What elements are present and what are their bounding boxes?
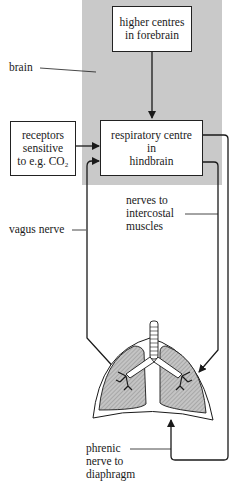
brain-label: brain bbox=[9, 61, 33, 74]
vagus-nerve-label: vagus nerve bbox=[9, 223, 64, 236]
brain-leader-line bbox=[40, 68, 96, 72]
receptors-box: receptors sensitive to e.g. CO₂ bbox=[10, 121, 76, 176]
intercostal-nerve-line bbox=[199, 162, 218, 372]
respiratory-centre-box: respiratory centre in hindbrain bbox=[100, 120, 203, 176]
respiratory-centre-label: respiratory centre in hindbrain bbox=[111, 129, 192, 168]
respiratory-control-diagram: higher centres in forebrain respiratory … bbox=[0, 0, 231, 483]
higher-centres-label: higher centres in forebrain bbox=[120, 16, 185, 42]
lungs-icon bbox=[93, 321, 213, 420]
higher-centres-box: higher centres in forebrain bbox=[112, 6, 192, 52]
intercostal-label: nerves to intercostal muscles bbox=[126, 194, 174, 233]
connector-lines bbox=[0, 0, 231, 483]
phrenic-label: phrenic nerve to diaphragm bbox=[86, 442, 135, 481]
vagus-nerve-line bbox=[87, 161, 118, 372]
receptors-label: receptors sensitive to e.g. CO₂ bbox=[17, 129, 68, 168]
